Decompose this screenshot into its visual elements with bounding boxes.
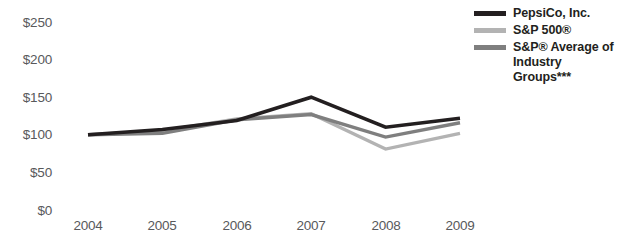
legend-item-industry: S&P® Average ofIndustry Groups*** bbox=[474, 40, 622, 71]
x-axis-tick-2006: 2006 bbox=[207, 218, 267, 233]
x-axis-tick-2009: 2009 bbox=[430, 218, 490, 233]
legend-label-sp500: S&P 500® bbox=[513, 23, 571, 38]
legend-label-industry: S&P® Average ofIndustry Groups*** bbox=[513, 40, 622, 85]
legend-swatch-pepsico bbox=[474, 11, 506, 16]
legend-label-industry-line1: S&P® Average of bbox=[513, 40, 614, 54]
legend-label-industry-line2: Industry Groups*** bbox=[513, 55, 571, 84]
x-axis-tick-2007: 2007 bbox=[281, 218, 341, 233]
stock-performance-chart: $250 $200 $150 $100 $50 $0 2004 2005 200… bbox=[0, 0, 623, 239]
x-axis-tick-2008: 2008 bbox=[356, 218, 416, 233]
legend-swatch-industry bbox=[474, 45, 506, 50]
series-layer bbox=[88, 97, 460, 149]
legend-swatch-sp500 bbox=[474, 28, 506, 33]
legend-label-pepsico: PepsiCo, Inc. bbox=[513, 6, 590, 21]
x-axis-tick-2004: 2004 bbox=[58, 218, 118, 233]
legend-item-sp500: S&P 500® bbox=[474, 23, 622, 39]
x-axis-tick-2005: 2005 bbox=[132, 218, 192, 233]
legend-item-pepsico: PepsiCo, Inc. bbox=[474, 6, 622, 22]
chart-legend: PepsiCo, Inc. S&P 500® S&P® Average ofIn… bbox=[474, 6, 622, 72]
